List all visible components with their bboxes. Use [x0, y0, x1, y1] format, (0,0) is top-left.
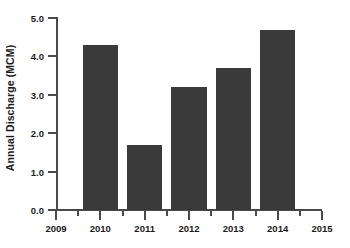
y-tick-4.0: [48, 55, 56, 57]
x-tick-label-2013: 2013: [208, 223, 258, 234]
x-tick-label-2009: 2009: [31, 223, 81, 234]
x-tick-label-2015: 2015: [297, 223, 347, 234]
bar-2012: [171, 87, 206, 210]
x-tick-2013: [232, 211, 234, 220]
y-tick-label-2.0: 2.0: [4, 128, 44, 139]
y-axis-title: Annual Discharge (MCM): [0, 0, 20, 215]
x-minor-tick: [77, 211, 79, 216]
bar-2014: [260, 30, 295, 210]
x-tick-label-2014: 2014: [253, 223, 303, 234]
x-minor-tick: [255, 211, 257, 216]
x-tick-label-2011: 2011: [120, 223, 170, 234]
bar-2013: [216, 68, 251, 210]
x-minor-tick: [166, 211, 168, 216]
x-tick-2009: [55, 211, 57, 220]
bar-chart: Annual Discharge (MCM) 0.01.02.03.04.05.…: [0, 0, 350, 248]
y-tick-label-5.0: 5.0: [4, 13, 44, 24]
y-tick-label-3.0: 3.0: [4, 89, 44, 100]
x-tick-label-2012: 2012: [164, 223, 214, 234]
x-tick-2012: [188, 211, 190, 220]
bar-2010: [83, 45, 118, 210]
bar-2011: [127, 145, 162, 210]
x-minor-tick: [210, 211, 212, 216]
y-tick-1.0: [48, 171, 56, 173]
y-axis-title-text: Annual Discharge (MCM): [4, 44, 16, 170]
x-minor-tick: [299, 211, 301, 216]
x-tick-2014: [277, 211, 279, 220]
y-tick-2.0: [48, 132, 56, 134]
bar-series: [56, 18, 322, 210]
x-minor-tick: [122, 211, 124, 216]
y-tick-label-1.0: 1.0: [4, 166, 44, 177]
y-tick-label-0.0: 0.0: [4, 205, 44, 216]
y-tick-label-4.0: 4.0: [4, 51, 44, 62]
x-tick-2010: [99, 211, 101, 220]
x-tick-label-2010: 2010: [75, 223, 125, 234]
x-tick-2015: [321, 211, 323, 220]
x-tick-2011: [144, 211, 146, 220]
y-tick-5.0: [48, 17, 56, 19]
y-tick-3.0: [48, 94, 56, 96]
